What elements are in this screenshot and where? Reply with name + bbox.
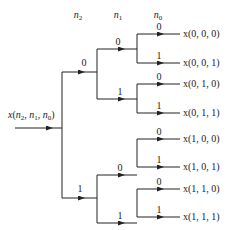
n1-bit-0: 0 bbox=[116, 36, 121, 47]
output-7: x(1, 1, 1) bbox=[183, 211, 220, 223]
output-6: x(1, 1, 0) bbox=[183, 183, 220, 195]
n2-bit-1: 1 bbox=[78, 183, 83, 194]
output-1: x(0, 0, 1) bbox=[183, 57, 220, 69]
header-n1: n1 bbox=[114, 9, 123, 22]
n0-bit-3: 1 bbox=[157, 100, 162, 111]
output-2: x(0, 1, 0) bbox=[183, 78, 220, 90]
input-label: x(n2, n1, n0) bbox=[7, 109, 55, 122]
output-0: x(0, 0, 0) bbox=[183, 28, 220, 40]
n2-bit-0: 0 bbox=[82, 57, 87, 68]
level-n2: 0 1 bbox=[62, 57, 97, 198]
n0-bit-1: 1 bbox=[157, 50, 162, 61]
level-n1: 0 1 0 1 bbox=[97, 36, 137, 223]
input-branch: x(n2, n1, n0) bbox=[7, 109, 62, 128]
output-4: x(1, 0, 0) bbox=[183, 133, 220, 145]
decimation-tree-diagram: n2 n1 n0 x(n2, n1, n0) 0 1 0 1 0 1 bbox=[0, 0, 227, 230]
n0-bit-5: 1 bbox=[157, 154, 162, 165]
column-headers: n2 n1 n0 bbox=[74, 9, 163, 22]
n1-bit-2: 0 bbox=[118, 162, 123, 173]
output-5: x(1, 0, 1) bbox=[183, 161, 220, 173]
level-n0: 0 1 0 1 0 1 0 1 bbox=[137, 21, 180, 217]
n0-bit-4: 0 bbox=[157, 126, 162, 137]
n1-bit-1: 1 bbox=[118, 86, 123, 97]
n1-bit-3: 1 bbox=[118, 210, 123, 221]
n0-bit-2: 0 bbox=[157, 71, 162, 82]
n0-bit-6: 0 bbox=[157, 176, 162, 187]
header-n2: n2 bbox=[74, 9, 83, 22]
n0-bit-7: 1 bbox=[157, 204, 162, 215]
outputs: x(0, 0, 0) x(0, 0, 1) x(0, 1, 0) x(0, 1,… bbox=[183, 28, 220, 223]
output-3: x(0, 1, 1) bbox=[183, 107, 220, 119]
n0-bit-0: 0 bbox=[157, 21, 162, 32]
